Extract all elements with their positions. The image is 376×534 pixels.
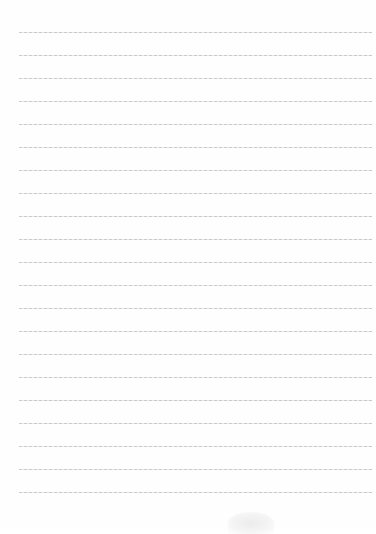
ruled-line bbox=[19, 492, 372, 493]
ruled-line bbox=[19, 55, 372, 56]
ruled-line bbox=[19, 170, 372, 171]
ruled-line bbox=[19, 400, 372, 401]
ruled-line bbox=[19, 308, 372, 309]
ruled-line bbox=[19, 446, 372, 447]
ruled-line bbox=[19, 377, 372, 378]
ruled-line bbox=[19, 216, 372, 217]
ruled-line bbox=[19, 147, 372, 148]
ruled-line bbox=[19, 78, 372, 79]
ruled-line bbox=[19, 354, 372, 355]
ruled-line bbox=[19, 124, 372, 125]
ruled-line bbox=[19, 331, 372, 332]
ruled-line bbox=[19, 469, 372, 470]
paper-smudge bbox=[228, 512, 274, 534]
ruled-line bbox=[19, 262, 372, 263]
ruled-line bbox=[19, 423, 372, 424]
ruled-line bbox=[19, 101, 372, 102]
ruled-line bbox=[19, 239, 372, 240]
ruled-line bbox=[19, 193, 372, 194]
ruled-line bbox=[19, 285, 372, 286]
ruled-line bbox=[19, 32, 372, 33]
